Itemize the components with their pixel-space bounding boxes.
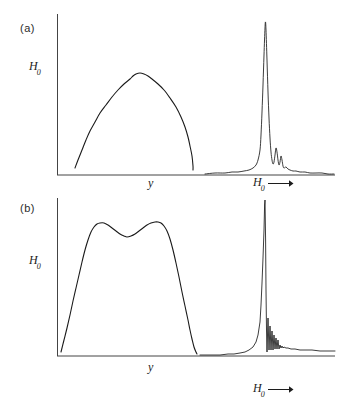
panel-b-right-x-axis-label-subscript: 0 xyxy=(261,390,265,399)
panel-b-label: (b) xyxy=(20,202,35,214)
panel-a-y-axis-label: H0 xyxy=(29,59,42,75)
arrow-right-icon xyxy=(268,179,294,188)
panel-b-right-x-axis-label: H0 xyxy=(253,381,294,397)
panel-a-label: (a) xyxy=(20,22,35,34)
panel-a-left-x-axis-label: y xyxy=(148,176,153,191)
panel-b-y-axis-label: H0 xyxy=(29,253,42,269)
panel-a-right-x-axis-label: H0 xyxy=(253,175,294,191)
panel-a-right-x-axis-label-subscript: 0 xyxy=(261,184,265,193)
panel-a-y-axis-label-subscript: 0 xyxy=(37,68,41,77)
panel-b-left-x-axis-label: y xyxy=(148,360,153,375)
arrow-right-icon xyxy=(268,385,294,394)
figure-canvas xyxy=(0,0,340,419)
panel-b-y-axis-label-subscript: 0 xyxy=(37,262,41,271)
